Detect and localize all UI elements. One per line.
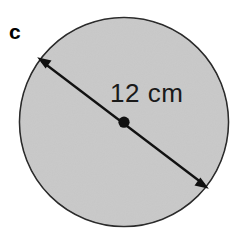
part-label-c: c — [9, 20, 31, 44]
figure-canvas — [0, 0, 241, 235]
diameter-measurement-label: 12 cm — [110, 78, 183, 109]
center-point-dot — [118, 117, 129, 128]
circle-diameter-figure: c 12 cm — [0, 0, 241, 235]
